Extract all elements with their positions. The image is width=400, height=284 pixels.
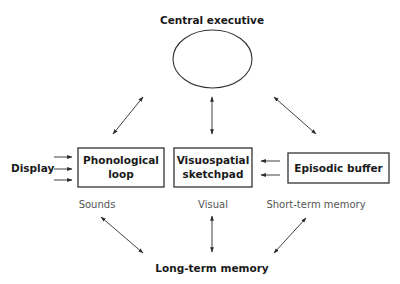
long-term-memory-label: Long-term memory	[155, 262, 269, 274]
display-label: Display	[11, 162, 54, 174]
arrow-buffer-ltm	[274, 218, 306, 253]
visual-label: Visual	[198, 199, 228, 210]
episodic-buffer-label: Episodic buffer	[294, 162, 383, 174]
central-executive-label: Central executive	[160, 14, 264, 26]
arrow-executive-buffer	[274, 97, 316, 134]
arrow-phonological-ltm	[101, 217, 143, 253]
working-memory-diagram: Central executive Display Phonological l…	[0, 0, 400, 284]
arrow-executive-phonological	[113, 97, 143, 134]
sounds-label: Sounds	[79, 199, 116, 210]
phonological-loop-label-2: loop	[108, 168, 134, 180]
short-term-memory-label: Short-term memory	[266, 199, 365, 210]
central-executive-ellipse	[173, 30, 252, 88]
visuospatial-sketchpad-label-2: sketchpad	[183, 168, 244, 180]
visuospatial-sketchpad-label-1: Visuospatial	[177, 154, 250, 166]
phonological-loop-label-1: Phonological	[83, 154, 159, 166]
